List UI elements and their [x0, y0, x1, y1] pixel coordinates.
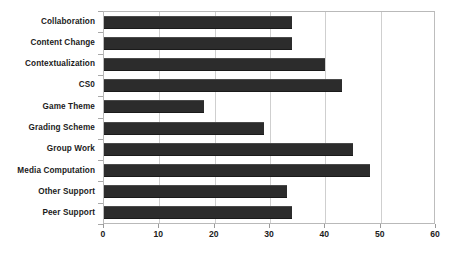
y-axis-label-collaboration: Collaboration — [0, 11, 100, 32]
x-tick-20 — [214, 224, 215, 228]
x-tick-label-10: 10 — [154, 230, 164, 239]
bar-cs0 — [104, 79, 342, 92]
bar-group-work — [104, 143, 353, 156]
x-axis-tick-labels: 0102030405060 — [103, 230, 435, 244]
bar-content-change — [104, 37, 292, 50]
x-tick-label-30: 30 — [264, 230, 274, 239]
y-axis-label-grading-scheme: Grading Scheme — [0, 117, 100, 138]
bar-collaboration — [104, 16, 292, 29]
y-axis-label-other-support: Other Support — [0, 181, 100, 202]
bar-other-support — [104, 185, 287, 198]
bar-row — [104, 96, 434, 117]
x-tick-30 — [269, 224, 270, 228]
x-tick-label-50: 50 — [375, 230, 385, 239]
bar-series — [104, 12, 434, 223]
x-tick-60 — [435, 224, 436, 228]
y-axis-label-cs0: CS0 — [0, 75, 100, 96]
y-axis-label-contextualization: Contextualization — [0, 54, 100, 75]
y-axis-label-peer-support: Peer Support — [0, 203, 100, 224]
bar-contextualization — [104, 58, 325, 71]
bar-grading-scheme — [104, 122, 264, 135]
x-tick-10 — [158, 224, 159, 228]
bar-media-computation — [104, 164, 370, 177]
bar-row — [104, 12, 434, 33]
y-axis-label-media-computation: Media Computation — [0, 160, 100, 181]
y-axis-label-group-work: Group Work — [0, 139, 100, 160]
bar-row — [104, 181, 434, 202]
bar-chart: Collaboration Content Change Contextuali… — [0, 0, 454, 262]
x-tick-label-40: 40 — [320, 230, 330, 239]
bar-game-theme — [104, 100, 204, 113]
bar-row — [104, 202, 434, 223]
bar-row — [104, 139, 434, 160]
bar-row — [104, 75, 434, 96]
y-axis-category-labels: Collaboration Content Change Contextuali… — [0, 11, 100, 224]
bar-row — [104, 160, 434, 181]
plot-area — [103, 11, 435, 224]
bar-row — [104, 54, 434, 75]
bar-row — [104, 33, 434, 54]
bar-row — [104, 117, 434, 138]
x-tick-label-20: 20 — [209, 230, 219, 239]
x-tick-label-0: 0 — [101, 230, 106, 239]
y-axis-label-game-theme: Game Theme — [0, 96, 100, 117]
x-tick-label-60: 60 — [430, 230, 440, 239]
bar-peer-support — [104, 206, 292, 219]
x-tick-50 — [380, 224, 381, 228]
y-axis-label-content-change: Content Change — [0, 32, 100, 53]
x-tick-0 — [103, 224, 104, 228]
x-tick-40 — [324, 224, 325, 228]
